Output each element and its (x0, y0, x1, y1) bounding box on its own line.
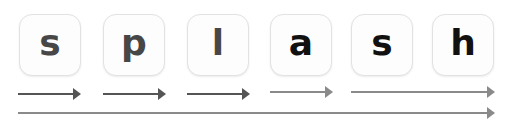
letter-h: h (450, 25, 476, 61)
arrow-icon (187, 93, 250, 95)
letter-card-3: l (187, 14, 249, 76)
letter-card-1: s (19, 14, 81, 76)
letter-card-5: s (351, 14, 413, 76)
letter-a: a (289, 25, 313, 61)
arrow-icon (270, 91, 333, 93)
letter-s: s (371, 25, 392, 61)
arrow-icon (103, 93, 166, 95)
letter-card-2: p (103, 14, 165, 76)
letter-s: s (39, 25, 60, 61)
arrow-icon (18, 93, 81, 95)
arrow-icon (351, 91, 495, 93)
letter-p: p (121, 25, 147, 61)
long-arrow-icon (18, 112, 495, 114)
letter-l: l (212, 25, 224, 61)
letter-card-6: h (432, 14, 494, 76)
letter-card-4: a (270, 14, 332, 76)
